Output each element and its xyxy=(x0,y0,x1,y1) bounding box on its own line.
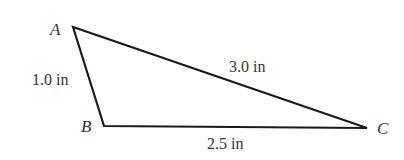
side-label-ab: 1.0 in xyxy=(32,71,68,88)
side-label-ac: 3.0 in xyxy=(229,58,265,75)
triangle-abc xyxy=(73,27,367,128)
triangle-figure: A B C 1.0 in 2.5 in 3.0 in xyxy=(0,0,404,160)
vertex-label-c: C xyxy=(377,119,389,138)
side-label-bc: 2.5 in xyxy=(207,135,243,152)
triangle-diagram: A B C 1.0 in 2.5 in 3.0 in xyxy=(0,0,404,160)
vertex-label-a: A xyxy=(49,20,61,39)
vertex-label-b: B xyxy=(81,117,92,136)
